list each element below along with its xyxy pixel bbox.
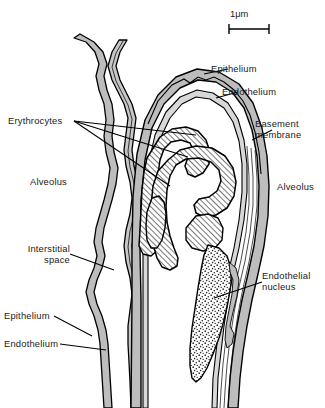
label-endothelium-bottom: Endothelium [4,338,58,349]
label-alveolus-left: Alveolus [30,176,67,187]
left-outer-epithelial-strand [74,34,118,408]
figure-container: 1μm Epithelium Endothelium Basement memb… [0,0,325,408]
label-epithelium-bottom: Epithelium [4,310,50,321]
scale-bar-icon [229,24,269,34]
label-basement-membrane: Basement membrane [255,118,301,141]
leader-endothelium-bottom [60,344,106,350]
scale-bar-label: 1μm [230,8,248,19]
label-endothelium-top: Endothelium [222,86,276,97]
endothelial-nucleus [190,245,231,382]
label-erythrocytes: Erythrocytes [8,115,62,126]
leader-epithelium-bottom [54,316,92,336]
erythrocyte-right-lobe [186,214,223,251]
label-alveolus-right: Alveolus [277,181,314,192]
label-epithelium-top: Epithelium [211,63,257,74]
label-endothelial-nucleus: Endothelial nucleus [262,270,310,293]
label-interstitial-space: Interstitial space [0,243,70,266]
leader-interstitial-space [70,254,114,270]
